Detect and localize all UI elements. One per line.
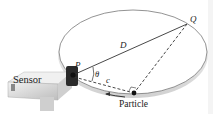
point-p — [70, 72, 75, 77]
sensor-device — [8, 66, 78, 111]
diagram: Sensor P Q D θ c Particle — [0, 0, 213, 114]
label-c: c — [106, 75, 110, 85]
sensor-label: Sensor — [13, 74, 42, 85]
label-d: D — [119, 40, 127, 50]
label-q: Q — [190, 14, 197, 24]
image-edge — [208, 0, 213, 114]
label-theta: θ — [95, 69, 99, 79]
label-p: P — [74, 60, 81, 70]
particle-label: Particle — [119, 99, 148, 109]
particle-dot — [132, 91, 137, 96]
circular-track — [59, 10, 207, 94]
